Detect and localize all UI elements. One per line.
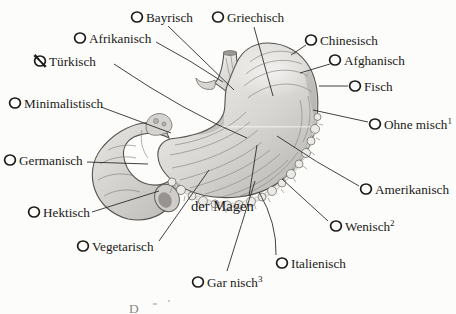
label-germanisch: Germanisch <box>19 153 83 168</box>
option-marker-italienisch <box>277 258 288 268</box>
label-amerikanisch: Amerikanisch <box>375 182 449 197</box>
label-afghanisch: Afghanisch <box>344 53 405 68</box>
label-fisch: Fisch <box>364 79 393 94</box>
leader-line-afrikanisch <box>156 42 223 82</box>
label-vegetarisch: Vegetarisch <box>92 239 154 254</box>
label-hektisch: Hektisch <box>43 205 90 220</box>
option-marker-chinesisch <box>306 35 317 45</box>
label-afrikanisch: Afrikanisch <box>89 31 152 46</box>
option-marker-griechisch <box>213 12 224 22</box>
caption-ink-speck <box>153 303 157 305</box>
option-marker-vegetarisch <box>78 241 89 251</box>
label-chinesisch: Chinesisch <box>320 33 378 48</box>
option-marker-amerikanisch <box>361 184 372 194</box>
label-minimalistisch: Minimalistisch <box>24 96 104 111</box>
option-marker-wenisch <box>331 221 342 231</box>
scan-band <box>222 126 318 128</box>
label-tuerkisch: Türkisch <box>49 54 96 69</box>
leader-line-ohne-misch <box>313 110 368 122</box>
option-marker-minimalistisch <box>10 98 21 108</box>
option-marker-hektisch <box>29 207 40 217</box>
label-bayrisch: Bayrisch <box>146 10 193 25</box>
label-der-magen: der Magen <box>191 198 255 214</box>
option-marker-ohne-misch <box>370 119 381 129</box>
cutoff-caption-fragment: D <box>129 301 141 314</box>
option-marker-tuerkisch <box>34 55 46 68</box>
leader-line-italienisch <box>259 192 276 255</box>
option-marker-bayrisch <box>132 12 143 22</box>
option-marker-gar-nisch <box>193 277 204 287</box>
label-italienisch: Italienisch <box>291 256 346 271</box>
option-marker-fisch <box>350 81 361 91</box>
label-gar-nisch: Gar nisch3 <box>207 274 263 290</box>
stomach-diagram: BayrischGriechischAfrikanischChinesischT… <box>0 0 456 314</box>
option-marker-germanisch <box>5 155 16 165</box>
label-ohne-misch: Ohne misch1 <box>384 116 452 132</box>
stomach-illustration <box>92 43 323 220</box>
option-marker-afghanisch <box>330 55 341 65</box>
scanned-diagram-page: BayrischGriechischAfrikanischChinesischT… <box>0 0 456 314</box>
label-griechisch: Griechisch <box>227 10 285 25</box>
caption-ink-speck <box>168 300 170 302</box>
label-wenisch: Wenisch2 <box>345 218 395 234</box>
option-marker-afrikanisch <box>75 33 86 43</box>
leader-line-wenisch <box>282 179 328 221</box>
